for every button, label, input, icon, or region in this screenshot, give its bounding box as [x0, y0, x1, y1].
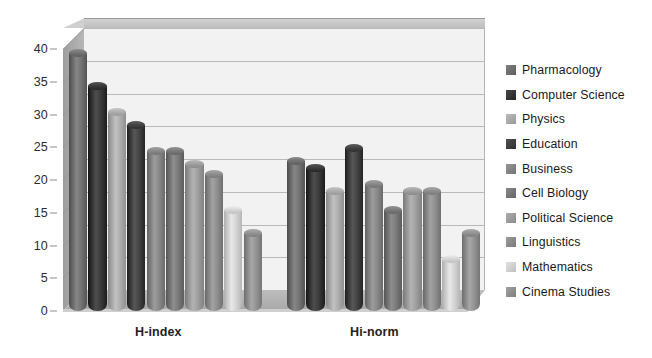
- bar-cap: [69, 49, 87, 57]
- bar: [166, 147, 184, 311]
- y-axis-tick-mark: [50, 245, 57, 246]
- legend: PharmacologyComputer SciencePhysicsEduca…: [506, 58, 652, 304]
- bar: [69, 49, 87, 311]
- legend-swatch-icon: [506, 262, 516, 272]
- y-axis: 4035302520151050: [0, 0, 70, 358]
- bar-body: [205, 174, 223, 311]
- bar: [88, 82, 106, 311]
- bar: [442, 255, 460, 311]
- bar-body: [306, 168, 324, 311]
- x-axis-label-hi-norm: Hi-norm: [350, 325, 399, 339]
- plot-area: [63, 18, 485, 313]
- legend-item[interactable]: Education: [506, 132, 652, 157]
- bar: [287, 157, 305, 311]
- legend-item[interactable]: Cinema Studies: [506, 279, 652, 304]
- bar: [365, 180, 383, 311]
- bar-body: [224, 210, 242, 311]
- legend-item[interactable]: Business: [506, 156, 652, 181]
- bar-body: [147, 151, 165, 311]
- bar-cap: [462, 229, 480, 237]
- legend-label: Political Science: [522, 211, 613, 225]
- legend-swatch-icon: [506, 65, 516, 75]
- y-axis-tick-label: 0: [8, 304, 48, 318]
- legend-swatch-icon: [506, 237, 516, 247]
- bar-cap: [88, 82, 106, 90]
- legend-item[interactable]: Mathematics: [506, 255, 652, 280]
- bar: [185, 160, 203, 311]
- bar-body: [326, 191, 344, 311]
- bar-body: [423, 191, 441, 311]
- y-axis-tick-mark: [50, 81, 57, 82]
- bar: [205, 170, 223, 311]
- y-axis-tick-label: 30: [8, 108, 48, 122]
- y-axis-tick-label: 15: [8, 206, 48, 220]
- y-axis-tick-label: 40: [8, 42, 48, 56]
- y-axis-tick-mark: [50, 147, 57, 148]
- bar: [403, 187, 421, 311]
- y-axis-tick-mark: [50, 180, 57, 181]
- legend-label: Pharmacology: [522, 63, 602, 77]
- legend-item[interactable]: Political Science: [506, 206, 652, 231]
- x-axis-label-h-index: H-index: [135, 325, 182, 339]
- legend-label: Physics: [522, 112, 565, 126]
- y-axis-tick-label: 25: [8, 140, 48, 154]
- legend-label: Education: [522, 137, 578, 151]
- bar: [147, 147, 165, 311]
- legend-label: Business: [522, 162, 573, 176]
- bar-body: [88, 86, 106, 311]
- y-axis-tick-mark: [50, 114, 57, 115]
- legend-item[interactable]: Physics: [506, 107, 652, 132]
- bar-body: [69, 53, 87, 311]
- bar: [244, 229, 262, 311]
- bar-body: [365, 184, 383, 311]
- bar-body: [287, 161, 305, 311]
- bar: [345, 144, 363, 311]
- bar: [326, 187, 344, 311]
- y-axis-tick-label: 20: [8, 173, 48, 187]
- legend-swatch-icon: [506, 213, 516, 223]
- y-axis-tick-mark: [50, 212, 57, 213]
- y-axis-tick-mark: [50, 278, 57, 279]
- bar-body: [166, 151, 184, 311]
- y-axis-tick-label: 35: [8, 75, 48, 89]
- bar-body: [185, 164, 203, 311]
- bar-body: [345, 148, 363, 311]
- bar-body: [244, 233, 262, 311]
- bar-body: [442, 259, 460, 311]
- legend-label: Cell Biology: [522, 186, 588, 200]
- bars-layer: [63, 18, 485, 313]
- bar-chart: 4035302520151050 H-indexHi-norm Pharmaco…: [0, 0, 652, 358]
- bar: [224, 206, 242, 311]
- y-axis-tick-label: 5: [8, 271, 48, 285]
- legend-swatch-icon: [506, 287, 516, 297]
- legend-swatch-icon: [506, 114, 516, 124]
- legend-label: Cinema Studies: [522, 285, 610, 299]
- bar-cap: [244, 229, 262, 237]
- bar-cap: [403, 187, 421, 195]
- legend-swatch-icon: [506, 164, 516, 174]
- bar: [108, 108, 126, 311]
- legend-item[interactable]: Pharmacology: [506, 58, 652, 83]
- bar-cap: [326, 187, 344, 195]
- bar: [127, 121, 145, 311]
- legend-swatch-icon: [506, 188, 516, 198]
- y-axis-tick-mark: [50, 49, 57, 50]
- bar: [306, 164, 324, 311]
- bar: [384, 206, 402, 311]
- legend-item[interactable]: Cell Biology: [506, 181, 652, 206]
- bar-cap: [108, 108, 126, 116]
- bar-body: [108, 112, 126, 311]
- bar-cap: [306, 164, 324, 172]
- legend-item[interactable]: Linguistics: [506, 230, 652, 255]
- bar: [423, 187, 441, 311]
- legend-item[interactable]: Computer Science: [506, 83, 652, 108]
- legend-swatch-icon: [506, 90, 516, 100]
- bar-cap: [423, 187, 441, 195]
- y-axis-tick-label: 10: [8, 239, 48, 253]
- legend-label: Computer Science: [522, 88, 625, 102]
- bar: [462, 229, 480, 311]
- bar-cap: [365, 180, 383, 188]
- legend-label: Linguistics: [522, 235, 581, 249]
- bar-body: [127, 125, 145, 311]
- bar-body: [384, 210, 402, 311]
